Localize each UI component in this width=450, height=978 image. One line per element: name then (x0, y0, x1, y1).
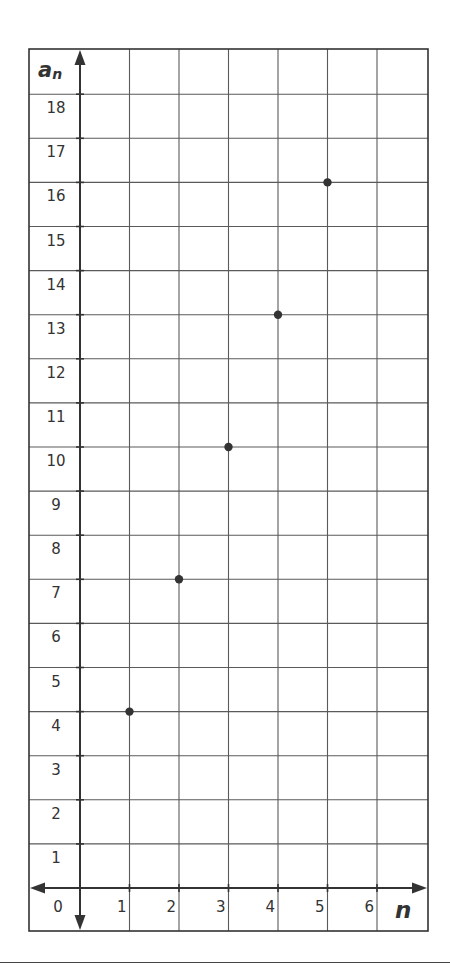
y-axis-tick-labels: 123456789101112131415161718 (46, 99, 65, 867)
x-tick-label: 3 (216, 898, 226, 916)
y-tick-label: 14 (46, 276, 65, 294)
y-axis-title: an (38, 58, 62, 82)
y-axis-down-arrow-icon (75, 915, 86, 930)
x-axis-left-arrow-icon (30, 883, 45, 894)
y-tick-label: 17 (46, 143, 65, 161)
data-point (274, 311, 282, 319)
y-axis-title-sub: n (52, 66, 62, 82)
x-axis-title: n (395, 897, 411, 923)
data-point (323, 178, 331, 186)
y-tick-label: 16 (46, 187, 65, 205)
y-tick-label: 18 (46, 99, 65, 117)
x-tick-label: 4 (265, 898, 275, 916)
y-tick-label: 13 (46, 320, 65, 338)
y-tick-label: 2 (51, 805, 61, 823)
data-point (175, 575, 183, 583)
x-axis-right-arrow-icon (412, 883, 427, 894)
x-tick-label: 0 (53, 898, 63, 916)
y-tick-label: 11 (46, 408, 65, 426)
x-tick-label: 1 (117, 898, 127, 916)
y-tick-label: 6 (51, 628, 61, 646)
y-tick-label: 1 (51, 849, 61, 867)
grid-lines (29, 49, 428, 931)
y-axis-title-main: a (38, 58, 52, 82)
data-point (224, 443, 232, 451)
y-tick-label: 15 (46, 232, 65, 250)
x-tick-label: 6 (364, 898, 374, 916)
x-axis-tick-labels: 0123456 (53, 898, 374, 916)
x-tick-label: 5 (315, 898, 325, 916)
data-point (125, 707, 133, 715)
y-tick-label: 3 (51, 761, 61, 779)
y-tick-label: 7 (51, 584, 61, 602)
page-divider-line (0, 962, 450, 963)
coordinate-grid-chart: 123456789101112131415161718 0123456 an n (0, 0, 450, 978)
y-axis-up-arrow-icon (75, 50, 86, 65)
x-tick-label: 2 (166, 898, 176, 916)
y-tick-label: 5 (51, 673, 61, 691)
y-tick-label: 4 (51, 717, 61, 735)
y-tick-label: 12 (46, 364, 65, 382)
y-tick-label: 8 (51, 540, 61, 558)
y-tick-label: 9 (51, 496, 61, 514)
y-tick-label: 10 (46, 452, 65, 470)
